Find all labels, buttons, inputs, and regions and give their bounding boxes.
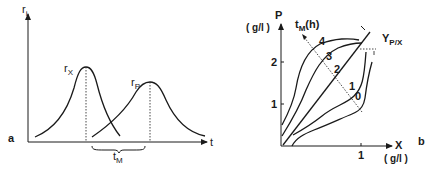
x-tick-label-1: 1 (358, 150, 364, 161)
tm-direction-line (304, 37, 362, 112)
panel-b-x-axis-label: X (395, 140, 402, 151)
y-tick-label-2: 2 (271, 57, 277, 68)
curve-label-0: 0 (355, 91, 361, 102)
tm-interval-label: tM (113, 151, 123, 162)
y-tick-label-1: 1 (271, 99, 277, 110)
rx-label: rX (64, 63, 73, 74)
curve-4 (282, 39, 359, 125)
panel-b-x-axis-unit: ( g/l ) (384, 154, 408, 164)
tm-direction-arrowhead (302, 34, 307, 40)
curve-label-4: 4 (319, 36, 325, 47)
panel-a-x-axis-label: t (210, 137, 213, 148)
curve-label-3: 3 (326, 51, 332, 62)
curve-label-2: 2 (334, 64, 340, 75)
rx-curve (35, 67, 120, 137)
panel-b-y-axis-unit: ( g/l ) (246, 23, 270, 33)
tm-direction-label: tM(h) (295, 19, 319, 30)
panel-a-letter: a (8, 133, 14, 144)
panel-b-axes (281, 24, 392, 146)
rp-curve (92, 82, 205, 137)
rp-label: rP (131, 77, 140, 88)
panel-a-y-axis-label: ri (22, 4, 27, 15)
panel-b-letter: b (418, 136, 425, 147)
yield-ref-tick (361, 26, 365, 30)
panel-b-y-axis-label: P (275, 10, 282, 21)
figure-graphics (0, 0, 430, 178)
figure: ri t a rX rP tM P ( g/l ) X ( g/l ) b 1 … (0, 0, 430, 178)
yield-label: YP/X (382, 33, 402, 44)
curve-0 (292, 62, 372, 146)
